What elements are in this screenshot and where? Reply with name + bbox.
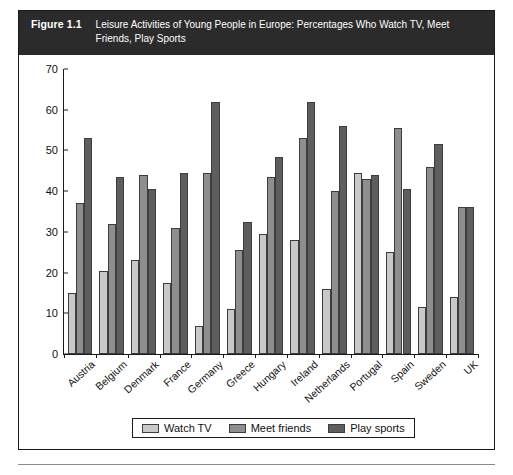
figure-number-label: Figure 1.1 [31, 18, 82, 30]
bar [227, 309, 235, 354]
x-axis-label-uk: UK [461, 358, 480, 377]
bottom-divider [18, 464, 495, 465]
legend-label-play-sports: Play sports [350, 422, 404, 434]
chart-axes: 010203040506070 [63, 69, 478, 355]
bar [235, 250, 243, 354]
bar [131, 260, 139, 354]
x-axis-label-sweden: Sweden [411, 358, 447, 392]
bar [331, 191, 339, 354]
bar [211, 102, 219, 354]
bar [180, 173, 188, 354]
bar [458, 207, 466, 354]
bar [267, 177, 275, 354]
bar [403, 189, 411, 354]
y-axis-tick-label: 10 [46, 307, 64, 319]
bar [299, 138, 307, 354]
x-axis-label-hungary: Hungary [251, 358, 289, 393]
bar [76, 203, 84, 354]
y-axis-tick-label: 40 [46, 185, 64, 197]
bar [426, 167, 434, 354]
y-axis-tick-label: 70 [46, 63, 64, 75]
chart-legend: Watch TV Meet friends Play sports [132, 418, 415, 438]
bar [243, 222, 251, 354]
bar [116, 177, 124, 354]
bar [195, 326, 203, 355]
bar-group [131, 69, 156, 354]
legend-item-meet-friends: Meet friends [229, 422, 312, 434]
bar [362, 179, 370, 354]
legend-swatch-play-sports [328, 424, 345, 433]
legend-swatch-meet-friends [229, 424, 246, 433]
bar [394, 128, 402, 354]
x-axis-label-portugal: Portugal [347, 358, 384, 393]
figure-caption-text: Leisure Activities of Young People in Eu… [96, 18, 484, 45]
chart-plot-area: 010203040506070 AustriaBelgiumDenmarkFra… [19, 55, 496, 451]
bar [203, 173, 211, 354]
bar-group [227, 69, 252, 354]
bar [84, 138, 92, 354]
bar [259, 234, 267, 354]
y-axis-tick-label: 50 [46, 144, 64, 156]
bar-group [195, 69, 220, 354]
bar-group [99, 69, 124, 354]
bar-group [418, 69, 443, 354]
bar [68, 293, 76, 354]
y-axis-tick-label: 20 [46, 267, 64, 279]
legend-swatch-watch-tv [142, 424, 159, 433]
bar [339, 126, 347, 354]
bar-group [450, 69, 475, 354]
x-axis-label-denmark: Denmark [121, 358, 161, 395]
x-axis-label-spain: Spain [388, 358, 416, 385]
bar [418, 307, 426, 354]
bar [108, 224, 116, 354]
bar-group [68, 69, 93, 354]
bar [99, 271, 107, 354]
bar [371, 175, 379, 354]
bar-series-layer [64, 69, 478, 354]
bar [450, 297, 458, 354]
bar [148, 189, 156, 354]
legend-item-play-sports: Play sports [328, 422, 404, 434]
bar-group [386, 69, 411, 354]
bar-group [322, 69, 347, 354]
legend-item-watch-tv: Watch TV [142, 422, 212, 434]
figure-caption-bar: Figure 1.1 Leisure Activities of Young P… [19, 11, 494, 55]
bar-group [163, 69, 188, 354]
bar [163, 283, 171, 354]
y-axis-tick-label: 30 [46, 226, 64, 238]
bar-group [354, 69, 379, 354]
bar [322, 289, 330, 354]
y-axis-tick-label: 60 [46, 104, 64, 116]
bar [354, 173, 362, 354]
bar [290, 240, 298, 354]
bar [307, 102, 315, 354]
bar [466, 207, 474, 354]
bar [275, 157, 283, 354]
legend-label-meet-friends: Meet friends [251, 422, 312, 434]
x-axis-tickmark [478, 354, 479, 358]
bar [434, 144, 442, 354]
legend-label-watch-tv: Watch TV [164, 422, 212, 434]
bar [139, 175, 147, 354]
bar [386, 252, 394, 354]
bar-group [259, 69, 284, 354]
bar [171, 228, 179, 354]
bar-group [290, 69, 315, 354]
figure-frame: Figure 1.1 Leisure Activities of Young P… [18, 10, 495, 450]
